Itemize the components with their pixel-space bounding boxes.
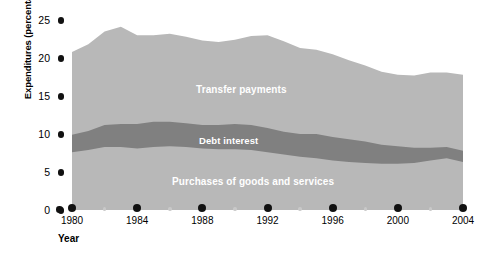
x-tick-minor-1994: [298, 207, 302, 211]
x-tick-minor-1998: [364, 207, 368, 211]
x-tick-label: 1980: [42, 215, 102, 226]
y-tick-label: 20: [38, 52, 50, 64]
series-label-debt-interest: Debt interest: [199, 135, 258, 146]
y-tick-dot: [58, 17, 65, 24]
y-tick-dot: [58, 131, 65, 138]
y-tick-10: 10: [0, 128, 64, 140]
y-axis-zero-dot: [56, 206, 63, 213]
x-tick-dot-1988: [198, 204, 206, 212]
y-tick-15: 15: [0, 90, 64, 102]
x-tick-label: 1992: [238, 215, 298, 226]
x-tick-label: 2000: [368, 215, 428, 226]
x-tick-dot-1992: [264, 204, 272, 212]
x-tick-minor-2002: [429, 207, 433, 211]
x-tick-minor-1982: [103, 207, 107, 211]
y-tick-label: 5: [44, 166, 50, 178]
x-tick-dot-1980: [68, 204, 76, 212]
x-tick-dot-1996: [329, 204, 337, 212]
expenditures-area-chart: Expenditures (percentage of GDP) 2520151…: [0, 0, 484, 256]
y-tick-25: 25: [0, 14, 64, 26]
x-tick-dot-2004: [459, 204, 467, 212]
x-tick-label: 1988: [172, 215, 232, 226]
y-tick-dot: [58, 93, 65, 100]
y-tick-5: 5: [0, 166, 64, 178]
series-label-transfer-payments: Transfer payments: [196, 84, 287, 95]
series-label-purchases: Purchases of goods and services: [172, 176, 334, 187]
x-tick-label: 2004: [433, 215, 484, 226]
x-tick-minor-1990: [233, 207, 237, 211]
y-tick-label: 15: [38, 90, 50, 102]
x-tick-minor-1986: [168, 207, 172, 211]
y-tick-20: 20: [0, 52, 64, 64]
y-tick-dot: [58, 55, 65, 62]
x-tick-label: 1984: [107, 215, 167, 226]
y-tick-label: 10: [38, 128, 50, 140]
y-tick-dot: [58, 169, 65, 176]
x-axis-title: Year: [58, 233, 79, 244]
x-tick-dot-2000: [394, 204, 402, 212]
y-tick-label: 25: [38, 14, 50, 26]
x-tick-label: 1996: [303, 215, 363, 226]
x-tick-dot-1984: [133, 204, 141, 212]
